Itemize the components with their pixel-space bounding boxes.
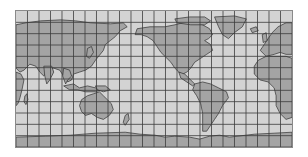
world-map[interactable]: Asia Australia North America Greenland S… [15,10,293,148]
india-region[interactable] [44,66,54,84]
africa-region[interactable] [254,56,292,119]
iceland-region[interactable] [250,27,258,33]
uk-region[interactable] [262,33,267,43]
map-canvas[interactable] [16,11,292,147]
arctic-islands-region[interactable] [175,17,211,25]
asia-region[interactable] [16,20,127,82]
new-zealand-region[interactable] [123,113,129,125]
east-africa-edge[interactable] [16,72,24,106]
greenland-region[interactable] [215,16,247,39]
north-america-region[interactable] [135,23,212,74]
